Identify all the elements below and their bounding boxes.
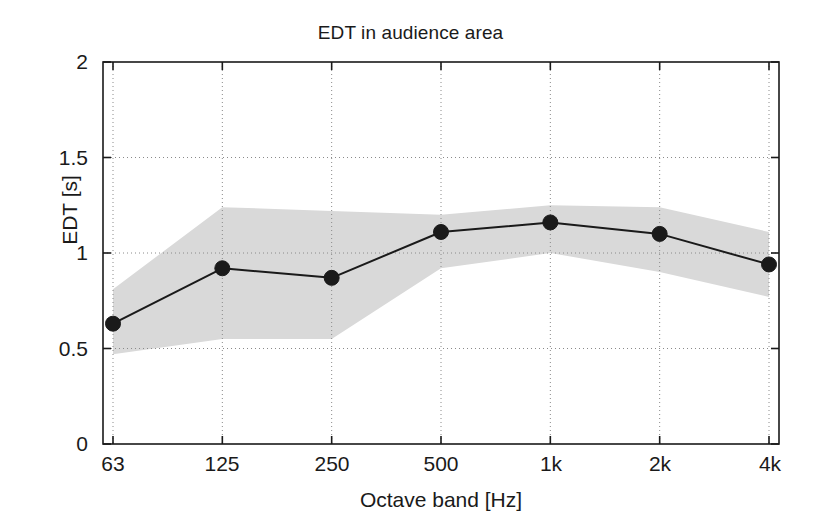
- data-point-marker: [652, 226, 667, 241]
- data-point-marker: [762, 257, 777, 272]
- data-point-marker: [215, 261, 230, 276]
- data-point-marker: [434, 224, 449, 239]
- plot-area: [0, 0, 821, 523]
- chart-figure: EDT in audience area EDT [s] Octave band…: [0, 0, 821, 523]
- data-point-marker: [106, 316, 121, 331]
- data-point-marker: [543, 215, 558, 230]
- data-point-marker: [324, 270, 339, 285]
